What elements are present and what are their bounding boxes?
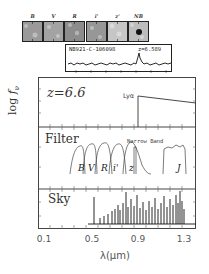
y-axis-label: log fν (6, 86, 21, 115)
band-label-z: z (129, 163, 134, 173)
narrow-band-label: Narrow Band (127, 138, 163, 144)
cutout-label-nb: NB (128, 13, 149, 19)
y-axis-label-nu: ν (13, 86, 21, 90)
panel-label-filter: Filter (45, 132, 79, 146)
x-tick-0-5: 0.5 (85, 234, 99, 244)
cutout-label-i: i' (86, 13, 107, 19)
y-axis-label-f: f (6, 90, 19, 94)
band-label-j: J (177, 163, 181, 173)
band-label-b: B (78, 163, 85, 173)
lya-line-label: Lyα (123, 92, 134, 100)
panel-label-redshift: z=6.6 (47, 85, 85, 100)
x-tick-0-9: 0.9 (131, 234, 145, 244)
y-axis-label-log: log (6, 98, 19, 115)
band-label-v: V (88, 163, 95, 173)
cutout-label-z: z' (107, 13, 128, 19)
x-axis-label: λ(μm) (100, 250, 130, 261)
spectrum-inset: NB921-C-106098 z=6.589 (65, 44, 172, 72)
x-tick-1-3: 1.3 (177, 234, 191, 244)
band-label-r: R (101, 163, 108, 173)
x-tick-0-1: 0.1 (37, 234, 51, 244)
cutout-label-r: R (64, 13, 85, 19)
panel-label-sky: Sky (48, 192, 70, 206)
cutout-noise (22, 21, 149, 42)
band-label-i: i' (113, 163, 118, 173)
spectrum-trace (66, 45, 173, 73)
cutout-label-b: B (22, 13, 43, 19)
cutout-label-v: V (43, 13, 64, 19)
